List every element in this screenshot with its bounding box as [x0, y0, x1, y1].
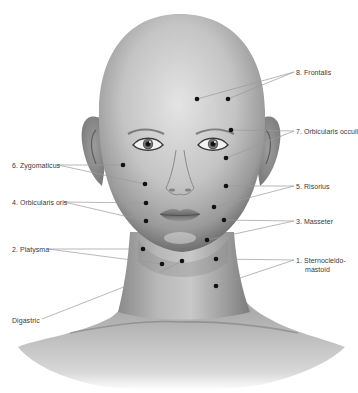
- injection-point: [121, 163, 126, 168]
- label-masseter: 3. Masseter: [296, 217, 333, 226]
- injection-point: [180, 259, 185, 264]
- label-sternocleidomastoid: 1. Sternocleido-: [296, 256, 346, 265]
- injection-point: [212, 205, 217, 210]
- injection-point: [224, 156, 229, 161]
- label-sternocleidomastoid-line2: mastoid: [305, 265, 330, 274]
- injection-point: [195, 97, 200, 102]
- label-risorius: 5. Risorius: [296, 182, 330, 191]
- injection-point: [144, 219, 149, 224]
- label-zygomaticus: 6. Zygomaticus: [12, 161, 60, 170]
- injection-point: [143, 182, 148, 187]
- injection-point: [222, 218, 227, 223]
- injection-point: [160, 262, 165, 267]
- label-orbicularis-oculi: 7. Orbicularis occuli: [296, 127, 358, 136]
- injection-point: [229, 128, 234, 133]
- injection-point: [144, 201, 149, 206]
- injection-point: [205, 238, 210, 243]
- injection-point: [141, 247, 146, 252]
- injection-point: [214, 284, 219, 289]
- injection-point: [224, 184, 229, 189]
- injection-point: [214, 257, 219, 262]
- label-frontalis: 8. Frontalis: [296, 68, 331, 77]
- label-digastric: Digastric: [12, 316, 40, 325]
- injection-point: [226, 97, 231, 102]
- label-platysma: 2. Platysma: [12, 245, 49, 254]
- label-orbicularis-oris: 4. Orbicularis oris: [12, 198, 67, 207]
